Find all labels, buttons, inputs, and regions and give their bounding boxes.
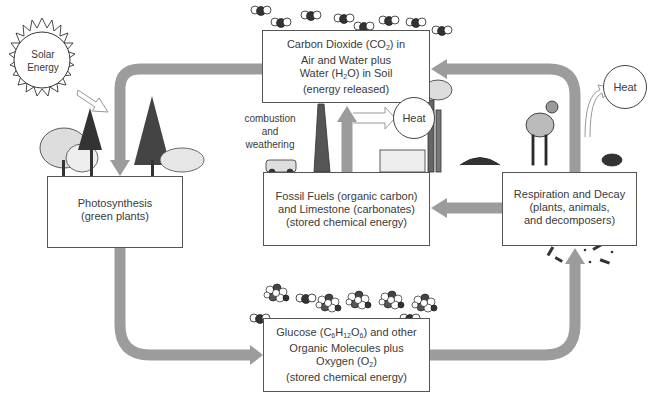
respiration-line1: Respiration and Decay [514,188,625,201]
heat-label: Heat [613,81,636,94]
combustion-line3: weathering [242,138,298,151]
arrow-respiration-to-co2 [445,69,575,172]
node-photosynthesis: Photosynthesis (green plants) [47,176,183,248]
combustion-label: combustion and weathering [242,112,298,151]
combustion-line2: and [242,125,298,138]
sun-label-line1: Solar [22,48,64,61]
animals-illustration [460,101,622,166]
respiration-line3: and decomposers) [524,214,615,227]
arrow-glucose-to-respiration [430,262,575,355]
sun-label-line2: Energy [22,61,64,74]
fossil-line3: (stored chemical energy) [286,216,407,229]
respiration-line2: (plants, animals, [529,201,609,214]
arrow-photosynthesis-to-glucose [120,248,250,355]
node-fossil-fuels: Fossil Fuels (organic carbon) and Limest… [263,172,430,246]
node-respiration: Respiration and Decay (plants, animals, … [502,172,637,246]
photosynthesis-line2: (green plants) [81,210,149,223]
node-co2: Carbon Dioxide (CO2) in Air and Water pl… [262,30,430,103]
co2-line3: Water (H2O) in Soil [300,67,393,83]
heat-node-combustion: Heat [393,97,435,139]
solar-arrow [77,90,108,112]
co2-line4: (energy released) [303,83,389,96]
fossil-line1: Fossil Fuels (organic carbon) [276,190,418,203]
glucose-line1: Glucose (C6H12O6) and other [276,326,416,342]
combustion-line1: combustion [242,112,298,125]
heat-label: Heat [402,112,425,125]
heat-node-respiration: Heat [603,65,647,109]
photosynthesis-line1: Photosynthesis [78,197,153,210]
sun-label: Solar Energy [22,48,64,74]
glucose-line2: Organic Molecules plus [289,342,403,355]
glucose-line3: Oxygen (O2) [316,355,377,371]
node-glucose: Glucose (C6H12O6) and other Organic Mole… [263,318,430,392]
fossil-line2: and Limestone (carbonates) [278,203,415,216]
co2-line1: Carbon Dioxide (CO2) in [287,38,405,54]
glucose-line4: (stored chemical energy) [286,371,407,384]
co2-line2: Air and Water plus [301,54,391,67]
